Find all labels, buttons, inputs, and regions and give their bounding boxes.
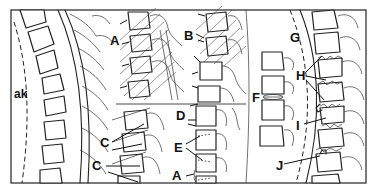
label-e: E <box>174 140 183 155</box>
label-b: B <box>184 28 193 43</box>
label-a-top: A <box>110 33 120 48</box>
label-a-bottom: A <box>172 168 182 183</box>
label-c-2: C <box>92 158 102 173</box>
label-h: H <box>296 68 305 83</box>
label-j: J <box>276 158 283 173</box>
label-f: F <box>252 90 260 105</box>
label-d: D <box>176 108 185 123</box>
label-g: G <box>290 30 300 45</box>
spine-diagram: ak A <box>0 0 377 195</box>
label-c-1: C <box>100 135 110 150</box>
label-i: I <box>296 118 300 133</box>
label-ak: ak <box>14 87 28 101</box>
